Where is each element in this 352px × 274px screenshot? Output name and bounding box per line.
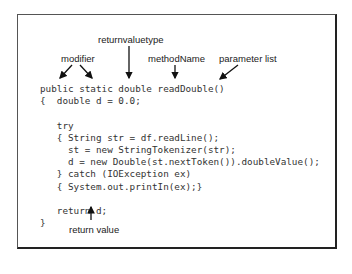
annotation-arrows	[0, 0, 352, 274]
arrow-modifier-static	[80, 65, 92, 78]
arrow-modifier-public	[60, 65, 72, 78]
arrow-parameter-list	[220, 65, 238, 79]
